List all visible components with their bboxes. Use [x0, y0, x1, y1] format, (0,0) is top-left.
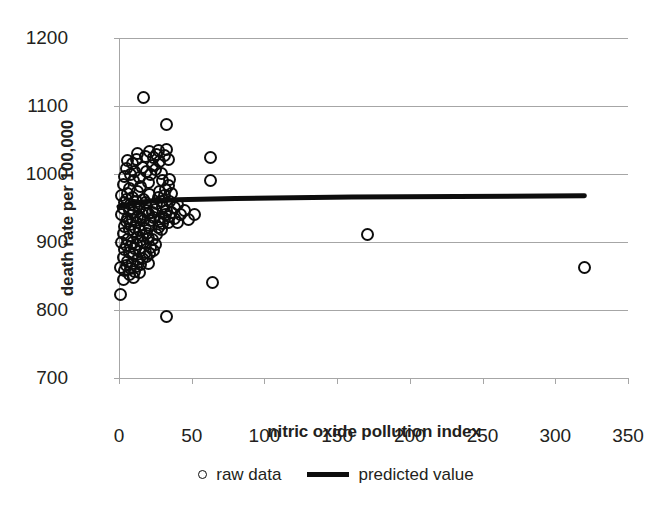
y-tick-label-1100: 1100 — [8, 96, 68, 115]
x-tick-label-150: 150 — [307, 426, 367, 445]
chart-legend: raw data predicted value — [0, 466, 672, 483]
data-point — [204, 151, 217, 164]
x-tick-label-250: 250 — [453, 426, 513, 445]
data-point — [578, 261, 591, 274]
scatter-plot-figure: death rate per 100,000 nitric oxide poll… — [0, 0, 672, 519]
x-tick-label-50: 50 — [162, 426, 222, 445]
data-point — [114, 288, 127, 301]
legend-label-raw-data: raw data — [216, 466, 281, 483]
y-tick-label-900: 900 — [8, 232, 68, 251]
legend-entry-predicted-value: predicted value — [307, 466, 473, 483]
data-point — [137, 91, 150, 104]
x-tick-label-100: 100 — [234, 426, 294, 445]
plot-area: 700800900100011001200 050100150200250300… — [119, 38, 628, 378]
y-tick-label-1200: 1200 — [8, 28, 68, 47]
x-tick-label-350: 350 — [598, 426, 658, 445]
legend-label-predicted-value: predicted value — [358, 466, 473, 483]
y-tick-label-800: 800 — [8, 300, 68, 319]
x-tick-label-200: 200 — [380, 426, 440, 445]
x-tick-mark-350 — [628, 378, 629, 384]
open-circle-icon — [198, 470, 207, 479]
x-tick-label-0: 0 — [89, 426, 149, 445]
legend-entry-raw-data: raw data — [198, 466, 281, 483]
x-tick-label-300: 300 — [525, 426, 585, 445]
y-tick-label-1000: 1000 — [8, 164, 68, 183]
y-tick-label-700: 700 — [8, 368, 68, 387]
line-swatch-icon — [307, 472, 349, 477]
data-point — [206, 276, 219, 289]
